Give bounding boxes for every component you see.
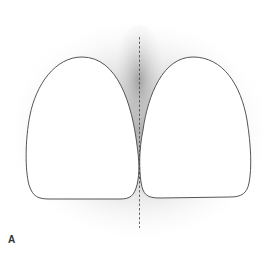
tooth-diagram <box>0 0 268 256</box>
panel-label: A <box>8 234 15 245</box>
